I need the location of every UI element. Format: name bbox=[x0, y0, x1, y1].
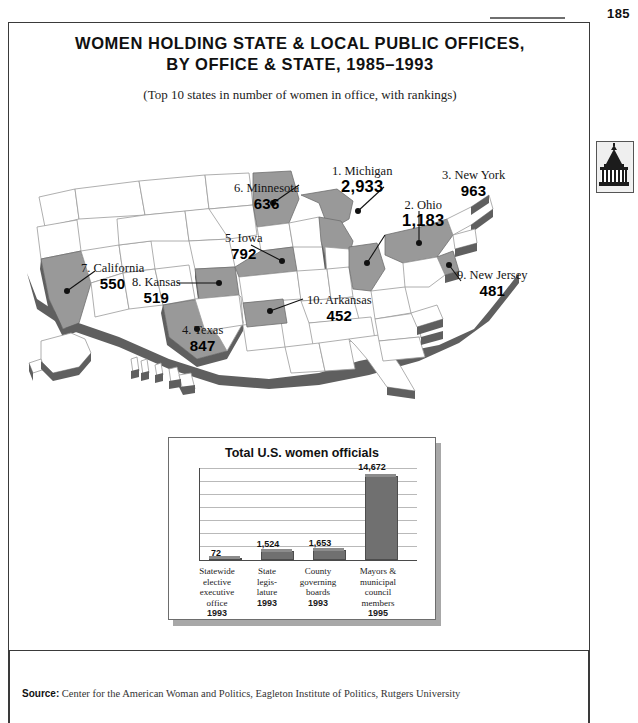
callout-iowa-value: 792 bbox=[225, 245, 263, 262]
cat-year: 1995 bbox=[368, 608, 388, 618]
frame-right-tail bbox=[588, 650, 590, 723]
callout-new-jersey: 9. New Jersey 481 bbox=[457, 268, 527, 299]
callout-minnesota: 6. Minnesota 636 bbox=[234, 181, 299, 212]
callout-arkansas-label: 10. Arkansas bbox=[307, 293, 372, 307]
cat-line: Mayors & bbox=[360, 566, 397, 576]
callout-new-york-label: 3. New York bbox=[442, 168, 505, 182]
callout-new-york: 3. New York 963 bbox=[442, 168, 505, 199]
callout-iowa: 5. Iowa 792 bbox=[225, 231, 263, 262]
bar-category-state-legislature: State legis- lature 1993 bbox=[245, 566, 289, 608]
chart-x-axis bbox=[199, 560, 417, 561]
bar-mayors-municipal-council-members bbox=[365, 476, 398, 560]
callout-ohio-label: 2. Ohio bbox=[402, 198, 444, 212]
callout-new-york-value: 963 bbox=[442, 182, 505, 199]
source-note: Source: Center for the American Woman an… bbox=[22, 688, 460, 699]
bar-category-statewide: Statewide elective executive office 1993 bbox=[189, 566, 245, 619]
chart-y-axis bbox=[199, 468, 200, 560]
callout-new-jersey-value: 481 bbox=[457, 282, 527, 299]
bar-cap bbox=[365, 474, 396, 477]
callout-michigan-label: 1. Michigan bbox=[332, 164, 392, 178]
callout-texas-label: 4. Texas bbox=[182, 323, 223, 337]
callout-iowa-label: 5. Iowa bbox=[225, 231, 263, 245]
callout-kansas-value: 519 bbox=[132, 289, 181, 306]
callout-texas-value: 847 bbox=[182, 337, 223, 354]
figure-title-line2: BY OFFICE & STATE, 1985–1993 bbox=[166, 55, 434, 73]
callout-minnesota-value: 636 bbox=[234, 195, 299, 212]
cat-line: council bbox=[365, 587, 392, 597]
cat-line: County bbox=[305, 566, 332, 576]
cat-year: 1993 bbox=[308, 598, 328, 608]
us-map: .st{fill:#ffffff;stroke:#9a9a9a;stroke-w… bbox=[19, 123, 581, 413]
cat-year: 1993 bbox=[257, 598, 277, 608]
bar-category-county-boards: County governing boards 1993 bbox=[289, 566, 347, 608]
figure-subtitle: (Top 10 states in number of women in off… bbox=[9, 87, 591, 103]
source-text: Center for the American Woman and Politi… bbox=[59, 688, 460, 699]
bar-value-state-legislature: 1,524 bbox=[249, 539, 287, 549]
callout-ohio-value: 1,183 bbox=[402, 212, 444, 229]
capitol-building-icon bbox=[596, 141, 634, 193]
cat-line: boards bbox=[306, 587, 330, 597]
bar-value-statewide: 72 bbox=[197, 548, 235, 558]
page-number: 185 bbox=[607, 6, 630, 21]
bar-value-mayors: 14,672 bbox=[352, 462, 392, 472]
bar-value-county-boards: 1,653 bbox=[301, 538, 339, 548]
cat-line: Statewide bbox=[199, 566, 235, 576]
callout-california-label: 7. California bbox=[81, 261, 144, 275]
frame-left-tail bbox=[8, 650, 10, 723]
callout-texas: 4. Texas 847 bbox=[182, 323, 223, 354]
cat-line: members bbox=[362, 598, 395, 608]
bar-county-governing-boards bbox=[313, 550, 346, 560]
page-header-rule bbox=[490, 17, 565, 19]
source-label: Source: bbox=[22, 688, 59, 699]
cat-line: office bbox=[207, 598, 228, 608]
cat-line: elective bbox=[203, 577, 231, 587]
figure-title-line1: WOMEN HOLDING STATE & LOCAL PUBLIC OFFIC… bbox=[75, 34, 525, 52]
callout-minnesota-label: 6. Minnesota bbox=[234, 181, 299, 195]
bar-cap bbox=[261, 549, 292, 552]
cat-line: governing bbox=[300, 577, 337, 587]
cat-line: lature bbox=[257, 587, 278, 597]
cat-line: municipal bbox=[360, 577, 396, 587]
inset-chart-title: Total U.S. women officials bbox=[169, 446, 435, 460]
callout-arkansas: 10. Arkansas 452 bbox=[307, 293, 372, 324]
callout-ohio: 2. Ohio 1,183 bbox=[402, 198, 444, 229]
cat-line: legis- bbox=[257, 577, 277, 587]
cat-line: State bbox=[258, 566, 276, 576]
bar-cap bbox=[313, 548, 344, 551]
callout-kansas-label: 8. Kansas bbox=[132, 275, 181, 289]
cat-year: 1993 bbox=[207, 608, 227, 618]
callout-arkansas-value: 452 bbox=[307, 307, 372, 324]
figure-title: WOMEN HOLDING STATE & LOCAL PUBLIC OFFIC… bbox=[9, 33, 591, 75]
cat-line: executive bbox=[200, 587, 234, 597]
bar-state-legislature bbox=[261, 551, 294, 560]
callout-new-jersey-label: 9. New Jersey bbox=[457, 268, 527, 282]
callout-michigan-value: 2,933 bbox=[332, 178, 392, 195]
bar-category-mayors: Mayors & municipal council members 1995 bbox=[347, 566, 409, 619]
callout-kansas: 8. Kansas 519 bbox=[132, 275, 181, 306]
inset-bar-chart: Total U.S. women officials 72 1,524 1,65… bbox=[168, 437, 436, 620]
callout-michigan: 1. Michigan 2,933 bbox=[332, 164, 392, 195]
